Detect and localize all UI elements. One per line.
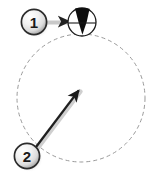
leader-line-2-shadow <box>38 92 81 149</box>
callout-badge-1[interactable]: 1 <box>21 9 50 38</box>
diagram-canvas: 1 2 <box>0 0 159 182</box>
leader-line-2-stroke <box>36 90 79 147</box>
leader-line-2 <box>36 90 81 148</box>
callout-badge-1-disc <box>21 9 46 34</box>
orbit-diagram-svg: 1 2 <box>0 0 159 182</box>
dashed-orbit-circle <box>17 34 145 162</box>
callout-badge-2-disc <box>14 143 39 168</box>
cone-marker-group[interactable] <box>68 8 96 36</box>
